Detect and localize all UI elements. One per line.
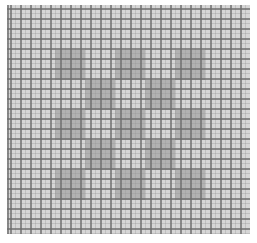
grid-lines [7,5,250,234]
grid-pattern [7,5,250,234]
